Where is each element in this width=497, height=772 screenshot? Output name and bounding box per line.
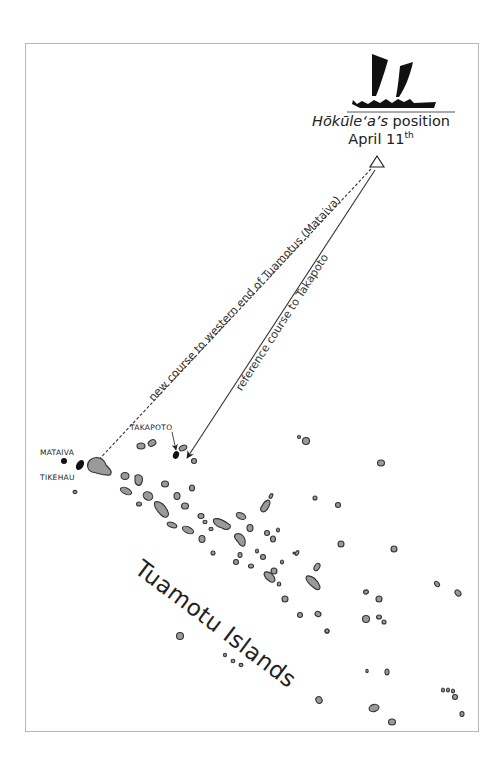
position-title: Hōkūle‘a’s position xyxy=(286,113,476,129)
date-text: April 11 xyxy=(348,131,404,147)
position-triangle-icon xyxy=(370,156,384,167)
canoe-icon xyxy=(352,54,436,108)
position-date: April 11th xyxy=(286,130,476,147)
highlight-islands xyxy=(61,450,180,471)
position-word: position xyxy=(388,113,450,129)
date-suffix: th xyxy=(404,130,413,140)
takapoto-leader xyxy=(172,432,176,450)
takapoto-label: TAKAPOTO xyxy=(130,423,172,432)
mataiva-label: MATAIVA xyxy=(40,448,74,457)
islands xyxy=(73,436,464,726)
vessel-name: Hōkūle‘a’s xyxy=(312,113,388,129)
tikehau-label: TIKEHAU xyxy=(40,473,75,482)
